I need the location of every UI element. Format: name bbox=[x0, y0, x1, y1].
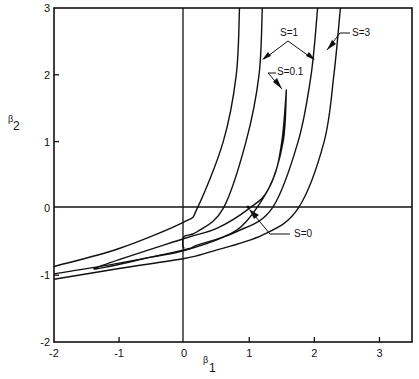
annotation-s3: S=3 bbox=[327, 27, 371, 50]
y-tick-label: 2 bbox=[44, 69, 50, 81]
x-tick-label: -1 bbox=[114, 347, 124, 359]
x-axis-label-beta: β bbox=[203, 355, 208, 365]
y-tick-label: 1 bbox=[44, 136, 50, 148]
x-tick-label: 3 bbox=[376, 347, 382, 359]
svg-text:S=0.1: S=0.1 bbox=[277, 66, 304, 77]
annotation-s1: S=1 bbox=[262, 27, 315, 60]
y-tick-label: -1 bbox=[40, 269, 50, 281]
x-axis-label-sub: 1 bbox=[209, 361, 216, 375]
plot-frame bbox=[54, 8, 412, 342]
svg-text:S=1: S=1 bbox=[280, 27, 299, 38]
y-tick-label: -2 bbox=[40, 336, 50, 348]
axis-ticks: -2-10123-2-10123 bbox=[40, 2, 382, 359]
contour-line bbox=[183, 8, 263, 248]
contour-line bbox=[54, 8, 240, 267]
contour-chart: -2-10123-2-10123 β 2 β 1 S=3 S=1 S=0.1 S… bbox=[0, 0, 419, 379]
y-axis-label-sub: 2 bbox=[13, 119, 20, 133]
x-tick-label: 1 bbox=[246, 347, 252, 359]
x-tick-label: 2 bbox=[311, 347, 317, 359]
x-tick-label: -2 bbox=[49, 347, 59, 359]
y-tick-label: 3 bbox=[44, 2, 50, 14]
x-tick-label: 0 bbox=[181, 347, 187, 359]
contour-line bbox=[94, 89, 286, 269]
annotation-s01: S=0.1 bbox=[268, 66, 304, 89]
svg-text:S=3: S=3 bbox=[352, 27, 371, 38]
svg-text:S=0: S=0 bbox=[294, 228, 313, 239]
y-tick-label: 0 bbox=[44, 202, 50, 214]
